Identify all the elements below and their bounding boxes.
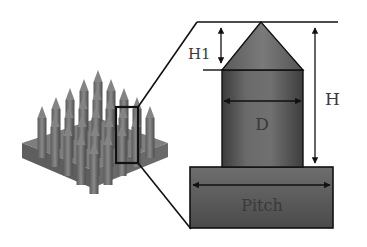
- pillar-tip: [66, 88, 75, 100]
- cone-tip: [222, 22, 303, 70]
- pillar: [146, 118, 155, 158]
- pitch-label: Pitch: [241, 196, 283, 215]
- zoom-line-top: [138, 22, 197, 107]
- pillar: [38, 118, 47, 158]
- pillar: [118, 136, 127, 176]
- pillar: [104, 145, 113, 185]
- pillar-tip: [38, 106, 47, 118]
- pillar: [64, 136, 73, 176]
- pillar-diagram: H1 H D Pitch: [0, 0, 367, 247]
- nanopillar-array: [22, 70, 168, 194]
- d-label: D: [255, 114, 269, 134]
- pillar: [132, 127, 141, 167]
- pillar-tip: [107, 79, 116, 91]
- pillar: [77, 145, 86, 185]
- pillar-tip: [94, 70, 103, 82]
- pillar-tip: [120, 88, 129, 100]
- h1-label: H1: [188, 45, 211, 63]
- h-label: H: [325, 89, 340, 109]
- zoom-line-bottom: [138, 163, 191, 229]
- pillar-tip: [52, 97, 61, 109]
- pillar-tip: [80, 79, 89, 91]
- pillar-tip: [146, 106, 155, 118]
- pillar: [51, 127, 60, 167]
- pillar: [90, 154, 99, 194]
